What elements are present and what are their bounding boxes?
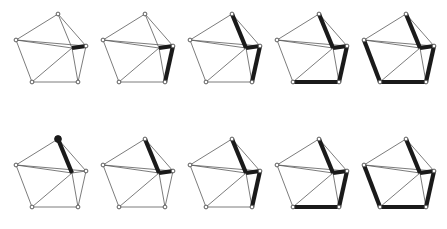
graph-edge-highlighted-e6 <box>319 14 333 48</box>
graph-vertex-v_bottom_right <box>76 80 80 84</box>
graph-vertex-v_bottom_left <box>291 80 295 84</box>
graph-vertex-v_right <box>432 44 436 48</box>
graph-edge-highlighted-e4 <box>339 171 347 207</box>
graph-vertex-v_bottom_right <box>76 205 80 209</box>
graph-canvas <box>0 125 87 229</box>
graph-edge-e8 <box>293 173 333 207</box>
graph-edge-highlighted-e4 <box>252 171 260 207</box>
graph-vertex-v_bottom_right <box>424 80 428 84</box>
graph-edge-e8 <box>380 48 420 82</box>
panel-row-top <box>0 0 447 104</box>
graph-canvas <box>261 125 348 229</box>
graph-edge-highlighted-e6 <box>319 139 333 173</box>
graph-edge-e2 <box>190 165 206 207</box>
graph-vertex-v_top <box>230 12 234 16</box>
graph-edge-highlighted-e6 <box>232 139 246 173</box>
graph-panel-bottom-panel-1 <box>0 125 87 229</box>
graph-vertex-v_top <box>317 137 321 141</box>
graph-vertex-v_bottom_right <box>163 80 167 84</box>
graph-edge-highlighted-e2 <box>364 40 380 82</box>
graph-edge-e1 <box>277 139 319 165</box>
graph-edge-e2 <box>103 165 119 207</box>
graph-canvas <box>348 0 435 104</box>
graph-edge-e4 <box>78 171 86 207</box>
graph-edge-e6 <box>145 14 159 48</box>
graph-vertex-v_bottom_right <box>424 205 428 209</box>
graph-edge-e9 <box>159 173 165 207</box>
graph-canvas <box>348 125 435 229</box>
graph-edge-e8 <box>206 48 246 82</box>
graph-edge-e5 <box>58 14 86 46</box>
graph-canvas <box>174 125 261 229</box>
graph-canvas <box>87 0 174 104</box>
graph-vertex-v_left <box>275 38 279 42</box>
graph-edge-e2 <box>190 40 206 82</box>
graph-canvas <box>261 0 348 104</box>
panel-row-bottom <box>0 125 447 229</box>
graph-panel-bottom-panel-3 <box>174 125 261 229</box>
graph-vertex-v_left <box>14 163 18 167</box>
graph-vertex-v_top <box>404 12 408 16</box>
graph-edge-e1 <box>364 14 406 40</box>
graph-vertex-v_bottom_left <box>117 80 121 84</box>
graph-vertex-v_bottom_left <box>204 205 208 209</box>
graph-edge-e2 <box>277 40 293 82</box>
graph-edge-e2 <box>16 165 32 207</box>
graph-vertex-v_top <box>317 12 321 16</box>
graph-edge-e8 <box>206 173 246 207</box>
graph-edge-e2 <box>16 40 32 82</box>
graph-panel-bottom-panel-4 <box>261 125 348 229</box>
graph-edge-e2 <box>103 40 119 82</box>
graph-panel-top-panel-5 <box>348 0 435 104</box>
graph-edge-highlighted-e4 <box>426 46 434 82</box>
graph-vertex-v_left <box>275 163 279 167</box>
graph-vertex-v_top <box>143 137 147 141</box>
graph-vertex-v_bottom_left <box>30 80 34 84</box>
graph-edge-highlighted-e6 <box>232 14 246 48</box>
graph-edge-e8 <box>32 173 72 207</box>
graph-edge-e6 <box>58 14 72 48</box>
graph-canvas <box>174 0 261 104</box>
graph-edge-highlighted-e6 <box>406 139 420 173</box>
graph-vertex-v_top <box>143 12 147 16</box>
graph-edge-e1 <box>103 14 145 40</box>
graph-edge-e1 <box>16 139 58 165</box>
graph-edge-highlighted-e4 <box>252 46 260 82</box>
graph-vertex-v_bottom_left <box>204 80 208 84</box>
graph-edge-highlighted-e4 <box>426 171 434 207</box>
graph-canvas <box>87 125 174 229</box>
graph-vertex-v_left <box>362 163 366 167</box>
graph-edge-e1 <box>277 14 319 40</box>
graph-edge-e8 <box>32 48 72 82</box>
graph-panel-top-panel-1 <box>0 0 87 104</box>
graph-vertex-v_left <box>188 38 192 42</box>
graph-vertex-v_right <box>432 169 436 173</box>
graph-vertex-v_left <box>14 38 18 42</box>
graph-edge-highlighted-e6 <box>145 139 159 173</box>
graph-edge-e1 <box>103 139 145 165</box>
graph-vertex-v_bottom_left <box>291 205 295 209</box>
graph-panel-top-panel-3 <box>174 0 261 104</box>
graph-vertex-v_top <box>56 12 60 16</box>
graph-vertex-v_bottom_right <box>337 80 341 84</box>
graph-vertex-v_top-filled <box>55 136 62 143</box>
graph-edge-e1 <box>190 139 232 165</box>
graph-panel-top-panel-2 <box>87 0 174 104</box>
graph-vertex-v_bottom_left <box>378 80 382 84</box>
graph-vertex-v_bottom_left <box>378 205 382 209</box>
graph-edge-e9 <box>72 48 78 82</box>
graph-vertex-v_bottom_left <box>30 205 34 209</box>
graph-edge-highlighted-e6 <box>406 14 420 48</box>
graph-edge-highlighted-e4 <box>165 46 173 82</box>
graph-edge-highlighted-e2 <box>364 165 380 207</box>
graph-vertex-v_left <box>101 163 105 167</box>
graph-edge-e4 <box>165 171 173 207</box>
graph-edge-e1 <box>364 139 406 165</box>
graph-edge-e5 <box>145 14 173 46</box>
graph-edge-e9 <box>72 173 78 207</box>
graph-panel-top-panel-4 <box>261 0 348 104</box>
graph-edge-e8 <box>380 173 420 207</box>
graph-panel-bottom-panel-5 <box>348 125 435 229</box>
graph-canvas <box>0 0 87 104</box>
graph-edge-e8 <box>119 173 159 207</box>
